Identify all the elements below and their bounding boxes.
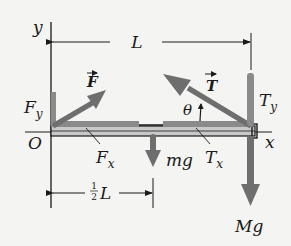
beam-weight-arrow xyxy=(145,134,161,167)
fy-label: Fy xyxy=(23,97,43,121)
theta-label: θ xyxy=(183,101,192,119)
tx-label: Tx xyxy=(205,147,223,171)
load-weight-label: Mg xyxy=(234,216,263,236)
y-axis-label: y xyxy=(32,17,43,37)
length-label: L xyxy=(130,32,142,52)
ty-component-arrow xyxy=(247,73,254,126)
svg-text:2: 2 xyxy=(91,192,97,202)
x-axis-label: x xyxy=(265,132,275,152)
beam-weight-label: mg xyxy=(166,150,193,170)
ty-label: Ty xyxy=(259,90,277,114)
mg-load-weight-arrow xyxy=(241,136,260,206)
theta-indicator-arrow xyxy=(200,104,201,121)
svg-text:L: L xyxy=(99,183,111,203)
fy-component-arrow xyxy=(51,92,56,126)
svg-text:1: 1 xyxy=(91,181,97,191)
origin-label: O xyxy=(28,133,42,153)
half-length-label: 1 2 L xyxy=(90,181,111,203)
f-vector-label: F xyxy=(86,73,99,91)
fx-label: Fx xyxy=(95,147,115,171)
f-vector-arrow xyxy=(53,90,106,126)
beam-free-body-diagram: y x O L F T θ Ty Mg xyxy=(0,0,291,246)
t-vector-label: T xyxy=(206,77,219,95)
